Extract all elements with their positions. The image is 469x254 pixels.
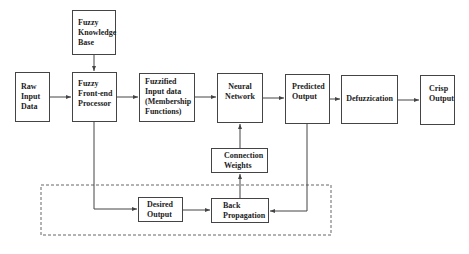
node-label: Connection Weights	[224, 151, 263, 171]
edge-frontend-desired	[94, 122, 137, 209]
node-back-propagation: Back Propagation	[211, 198, 269, 223]
node-label: Defuzzication	[346, 94, 393, 104]
node-label: Crisp Output	[429, 84, 454, 104]
node-crisp-output: Crisp Output	[420, 75, 455, 125]
node-label: Neural Network	[225, 82, 255, 102]
edge-predicted-backprop	[270, 124, 307, 211]
node-connection-weights: Connection Weights	[211, 148, 268, 173]
node-label: Fuzzy Knowledge Base	[78, 18, 116, 48]
node-label: Predicted Output	[292, 82, 325, 102]
node-label: Fuzzified Input data (Membership Functio…	[145, 77, 191, 117]
node-label: Raw Input Data	[21, 82, 40, 112]
node-raw-input-data: Raw Input Data	[15, 72, 50, 122]
node-fuzzy-front-end-processor: Fuzzy Front-end Processor	[72, 72, 117, 122]
node-label: Fuzzy Front-end Processor	[78, 79, 113, 109]
node-defuzzication: Defuzzication	[341, 75, 398, 124]
node-label: Desired Output	[147, 200, 173, 220]
node-neural-network: Neural Network	[217, 73, 263, 123]
node-predicted-output: Predicted Output	[285, 74, 330, 124]
node-fuzzified-input-data: Fuzzified Input data (Membership Functio…	[139, 73, 195, 122]
node-fuzzy-knowledge-base: Fuzzy Knowledge Base	[72, 10, 116, 55]
node-desired-output: Desired Output	[138, 197, 183, 222]
node-label: Back Propagation	[223, 201, 265, 221]
